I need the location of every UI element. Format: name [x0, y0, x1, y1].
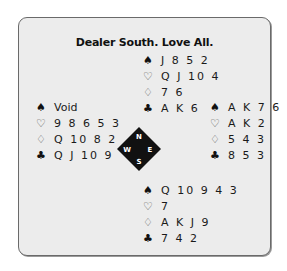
west-spades: ♠Void: [36, 100, 121, 116]
east-spades: ♠A K 7 6: [210, 100, 281, 116]
diamond-icon: ♢: [210, 132, 228, 148]
west-hearts: ♡9 8 6 5 3: [36, 116, 121, 132]
heart-icon: ♡: [143, 69, 161, 85]
north-hand: ♠J 8 5 2 ♡Q J 10 4 ♢7 6 ♣A K 6: [143, 53, 220, 117]
south-hearts: ♡7: [143, 199, 239, 215]
diamond-icon: ♢: [36, 132, 54, 148]
spade-icon: ♠: [143, 183, 161, 199]
east-hearts: ♡A K 2: [210, 116, 281, 132]
heart-icon: ♡: [210, 116, 228, 132]
diamond-icon: ♢: [143, 85, 161, 101]
north-spades: ♠J 8 5 2: [143, 53, 220, 69]
north-diamonds: ♢7 6: [143, 85, 220, 101]
club-icon: ♣: [36, 148, 54, 164]
east-hand: ♠A K 7 6 ♡A K 2 ♢5 4 3 ♣8 5 3: [210, 100, 281, 164]
heart-icon: ♡: [143, 199, 161, 215]
club-icon: ♣: [143, 101, 161, 117]
heart-icon: ♡: [36, 116, 54, 132]
north-clubs: ♣A K 6: [143, 101, 220, 117]
compass-w: W: [123, 146, 131, 154]
compass-diamond: N W E S: [117, 127, 161, 171]
south-spades: ♠Q 10 9 4 3: [143, 183, 239, 199]
west-hand: ♠Void ♡9 8 6 5 3 ♢Q 10 8 2 ♣Q J 10 9: [36, 100, 121, 164]
compass-s: S: [136, 158, 141, 166]
south-hand: ♠Q 10 9 4 3 ♡7 ♢A K J 9 ♣7 4 2: [143, 183, 239, 247]
compass-n: N: [136, 133, 142, 141]
deal-title: Dealer South. Love All.: [19, 36, 270, 49]
spade-icon: ♠: [143, 53, 161, 69]
west-diamonds: ♢Q 10 8 2: [36, 132, 121, 148]
north-hearts: ♡Q J 10 4: [143, 69, 220, 85]
south-clubs: ♣7 4 2: [143, 231, 239, 247]
bridge-deal-panel: Dealer South. Love All. ♠J 8 5 2 ♡Q J 10…: [18, 17, 271, 256]
club-icon: ♣: [143, 231, 161, 247]
south-diamonds: ♢A K J 9: [143, 215, 239, 231]
spade-icon: ♠: [36, 100, 54, 116]
compass-icon: N W E S: [117, 127, 161, 171]
east-clubs: ♣8 5 3: [210, 148, 281, 164]
compass-e: E: [148, 146, 153, 154]
club-icon: ♣: [210, 148, 228, 164]
diamond-icon: ♢: [143, 215, 161, 231]
west-clubs: ♣Q J 10 9: [36, 148, 121, 164]
spade-icon: ♠: [210, 100, 228, 116]
east-diamonds: ♢5 4 3: [210, 132, 281, 148]
